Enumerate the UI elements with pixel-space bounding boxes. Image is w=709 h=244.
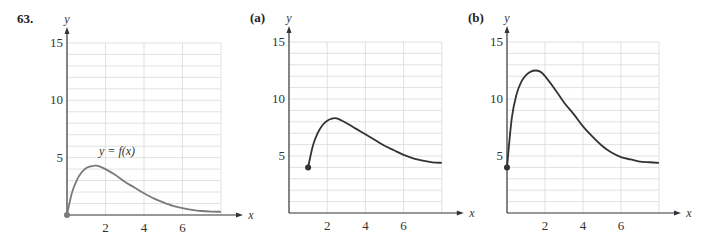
- grid: [67, 43, 221, 215]
- x-tick-label: 2: [542, 218, 549, 233]
- function-curve: [308, 118, 442, 167]
- y-axis-arrow-icon: [65, 27, 70, 34]
- start-point-dot: [504, 164, 510, 170]
- y-tick-label: 5: [279, 148, 286, 163]
- y-tick-label: 15: [272, 34, 285, 49]
- y-tick-label: 10: [50, 92, 63, 107]
- x-tick-label: 4: [580, 218, 587, 233]
- x-axis-arrow-icon: [674, 211, 681, 216]
- start-point-dot: [64, 212, 70, 218]
- panel-label: (b): [468, 10, 484, 25]
- figure-canvas: xy2465101563.y = f(x)xy24651015(a)xy2465…: [0, 0, 709, 244]
- panel-label: (a): [250, 10, 265, 25]
- y-tick-label: 15: [50, 35, 63, 50]
- chart-panel-original: xy2465101563.y = f(x): [17, 11, 254, 235]
- panel-label: 63.: [17, 11, 33, 26]
- x-axis-arrow-icon: [457, 211, 464, 216]
- y-axis-label: y: [63, 12, 70, 26]
- x-tick-label: 4: [362, 218, 369, 233]
- x-tick-label: 4: [141, 220, 148, 235]
- x-tick-label: 6: [400, 218, 407, 233]
- x-tick-label: 2: [102, 220, 109, 235]
- y-tick-label: 5: [497, 148, 504, 163]
- y-tick-label: 5: [57, 150, 64, 165]
- grid: [289, 42, 442, 213]
- x-axis-label: x: [247, 208, 254, 222]
- y-axis-arrow-icon: [287, 26, 292, 33]
- x-tick-label: 2: [324, 218, 331, 233]
- y-axis-label: y: [503, 11, 510, 25]
- y-tick-label: 10: [272, 91, 285, 106]
- y-axis-arrow-icon: [505, 26, 510, 33]
- chart-panel-a: xy24651015(a): [250, 10, 475, 233]
- y-axis-label: y: [285, 11, 292, 25]
- curve-label: y = f(x): [98, 144, 135, 158]
- x-tick-label: 6: [179, 220, 186, 235]
- x-axis-label: x: [685, 206, 692, 220]
- x-axis-arrow-icon: [236, 213, 243, 218]
- x-axis-label: x: [468, 206, 475, 220]
- y-tick-label: 15: [490, 34, 503, 49]
- start-point-dot: [305, 164, 311, 170]
- y-tick-label: 10: [490, 91, 503, 106]
- x-tick-label: 6: [618, 218, 625, 233]
- chart-panel-b: xy24651015(b): [468, 10, 692, 233]
